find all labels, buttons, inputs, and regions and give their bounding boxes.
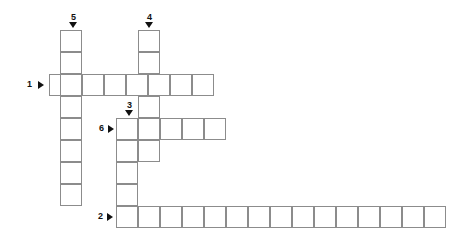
crossword-cell[interactable] bbox=[60, 162, 82, 184]
clue-arrow-down-icon bbox=[145, 22, 153, 28]
crossword-grid: 123456 bbox=[0, 0, 469, 244]
crossword-cell[interactable] bbox=[60, 140, 82, 162]
crossword-cell[interactable] bbox=[116, 140, 138, 162]
crossword-cell[interactable] bbox=[292, 206, 314, 228]
crossword-cell[interactable] bbox=[138, 140, 160, 162]
crossword-cell[interactable] bbox=[170, 74, 192, 96]
crossword-cell[interactable] bbox=[60, 118, 82, 140]
crossword-cell[interactable] bbox=[270, 206, 292, 228]
crossword-cell[interactable] bbox=[116, 206, 138, 228]
crossword-cell[interactable] bbox=[204, 206, 226, 228]
crossword-cell[interactable] bbox=[380, 206, 402, 228]
clue-arrow-across-icon bbox=[108, 125, 114, 133]
crossword-cell[interactable] bbox=[82, 74, 104, 96]
crossword-cell[interactable] bbox=[60, 30, 82, 52]
crossword-cell[interactable] bbox=[358, 206, 380, 228]
crossword-cell[interactable] bbox=[138, 96, 160, 118]
crossword-cell[interactable] bbox=[138, 52, 160, 74]
crossword-cell[interactable] bbox=[148, 74, 170, 96]
crossword-cell[interactable] bbox=[424, 206, 446, 228]
crossword-cell[interactable] bbox=[116, 162, 138, 184]
clue-number-1: 1 bbox=[27, 80, 32, 89]
clue-arrow-down-icon bbox=[125, 110, 133, 116]
crossword-cell[interactable] bbox=[138, 118, 160, 140]
crossword-cell[interactable] bbox=[192, 74, 214, 96]
crossword-cell[interactable] bbox=[226, 206, 248, 228]
crossword-cell[interactable] bbox=[138, 206, 160, 228]
crossword-cell[interactable] bbox=[116, 118, 138, 140]
crossword-cell[interactable] bbox=[160, 206, 182, 228]
clue-arrow-across-icon bbox=[38, 81, 44, 89]
clue-arrow-across-icon bbox=[107, 213, 113, 221]
crossword-cell[interactable] bbox=[314, 206, 336, 228]
crossword-cell[interactable] bbox=[126, 74, 148, 96]
crossword-cell[interactable] bbox=[60, 74, 82, 96]
clue-number-6: 6 bbox=[99, 124, 104, 133]
crossword-cell[interactable] bbox=[60, 96, 82, 118]
crossword-cell[interactable] bbox=[104, 74, 126, 96]
crossword-cell[interactable] bbox=[182, 118, 204, 140]
clue-arrow-down-icon bbox=[69, 22, 77, 28]
crossword-cell[interactable] bbox=[160, 118, 182, 140]
crossword-cell[interactable] bbox=[402, 206, 424, 228]
crossword-cell[interactable] bbox=[248, 206, 270, 228]
crossword-cell[interactable] bbox=[60, 184, 82, 206]
crossword-cell[interactable] bbox=[60, 52, 82, 74]
crossword-cell[interactable] bbox=[182, 206, 204, 228]
crossword-cell[interactable] bbox=[336, 206, 358, 228]
clue-number-5: 5 bbox=[71, 13, 76, 22]
crossword-cell[interactable] bbox=[204, 118, 226, 140]
crossword-cell[interactable] bbox=[138, 30, 160, 52]
crossword-cell[interactable] bbox=[116, 184, 138, 206]
clue-number-2: 2 bbox=[98, 212, 103, 221]
clue-number-4: 4 bbox=[147, 13, 152, 22]
clue-number-3: 3 bbox=[127, 101, 132, 110]
